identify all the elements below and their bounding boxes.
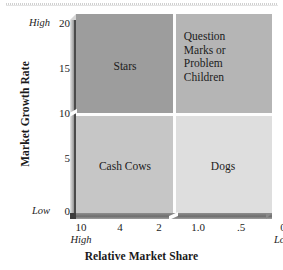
page-top-rule-shadow — [6, 5, 278, 6]
x-tick-10: 10 — [68, 221, 94, 233]
quadrant-label-cash-cows: Cash Cows — [76, 160, 174, 174]
x-axis-ticks: 10 4 2 1.0 .5 0 — [76, 221, 272, 235]
x-axis-title: Relative Market Share — [0, 250, 283, 262]
x-axis-low-word: Low — [266, 234, 283, 245]
growth-share-matrix: Stars Question Marks or Problem Children… — [76, 14, 272, 213]
y-axis-high-word: High — [14, 17, 50, 28]
x-tick-4: 4 — [107, 221, 133, 233]
quadrant-label-dogs: Dogs — [174, 160, 272, 174]
y-axis-low-word: Low — [14, 205, 50, 216]
x-tick-1.0: 1.0 — [185, 221, 211, 233]
quadrant-label-question-marks: Question Marks or Problem Children — [184, 30, 226, 84]
x-axis-end-words: High Low — [76, 234, 272, 248]
x-tick-2: 2 — [146, 221, 172, 233]
x-tick-0: 0 — [270, 221, 283, 233]
x-axis-high-word: High — [64, 234, 98, 245]
y-tick-20: 20 — [52, 17, 70, 29]
y-tick-10: 10 — [52, 107, 70, 119]
quadrant-label-stars: Stars — [76, 60, 174, 74]
y-tick-15: 15 — [52, 62, 70, 74]
y-axis-title: Market Growth Rate — [19, 29, 31, 199]
matrix-bottom-bevel — [266, 213, 272, 219]
quadrant-divider-horizontal — [76, 113, 272, 116]
y-tick-5: 5 — [52, 152, 70, 164]
x-tick-.5: .5 — [228, 221, 254, 233]
y-tick-0: 0 — [52, 205, 70, 217]
